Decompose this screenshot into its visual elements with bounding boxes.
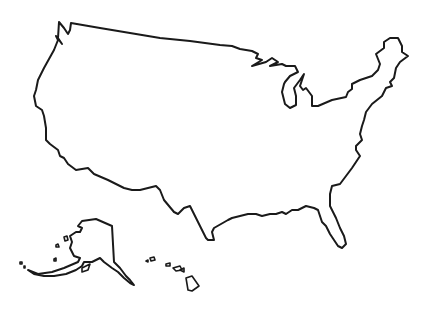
- hawaii-outline: [146, 257, 199, 291]
- alaska-outline: [20, 219, 134, 285]
- us-outline-map: [0, 0, 422, 311]
- contiguous-us-outline: [34, 22, 408, 248]
